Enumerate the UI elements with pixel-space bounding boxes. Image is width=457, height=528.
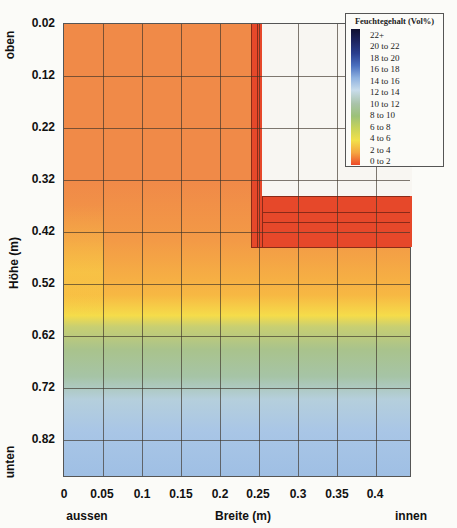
x-tick-label: 0 bbox=[61, 487, 68, 501]
legend-entry: 10 to 12 bbox=[370, 99, 400, 109]
y-tick-label: 0.62 bbox=[32, 328, 55, 342]
slab-bottom-edge bbox=[251, 247, 410, 248]
x-tick-label: 0.2 bbox=[212, 487, 229, 501]
x-right-label: innen bbox=[395, 509, 427, 523]
grid-line bbox=[64, 336, 410, 337]
legend-entry: 16 to 18 bbox=[370, 64, 400, 74]
grid-line bbox=[259, 24, 260, 476]
slab-edge bbox=[262, 196, 410, 197]
grid-line bbox=[64, 388, 410, 389]
x-tick-label: 0.35 bbox=[325, 487, 348, 501]
legend-entry: 8 to 10 bbox=[370, 110, 395, 120]
y-tick-label: 0.12 bbox=[32, 68, 55, 82]
grid-line bbox=[181, 24, 182, 476]
legend-entry: 12 to 14 bbox=[370, 87, 400, 97]
legend-entry: 14 to 16 bbox=[370, 76, 400, 86]
x-tick-label: 0.3 bbox=[290, 487, 307, 501]
legend-entry: 2 to 4 bbox=[370, 145, 391, 155]
wall-layer-line bbox=[257, 24, 258, 247]
y-tick-label: 0.72 bbox=[32, 380, 55, 394]
legend-entry: 0 to 2 bbox=[370, 156, 391, 166]
x-tick-label: 0.15 bbox=[169, 487, 192, 501]
legend-entry: 22+ bbox=[370, 30, 384, 40]
grid-line bbox=[337, 24, 338, 476]
grid-line bbox=[142, 24, 143, 476]
y-tick-label: 0.22 bbox=[32, 120, 55, 134]
legend-entry: 18 to 20 bbox=[370, 53, 400, 63]
legend-title: Feuchtegehalt (Vol%) bbox=[346, 14, 443, 26]
x-tick-label: 0.1 bbox=[134, 487, 151, 501]
legend: Feuchtegehalt (Vol%) 22+ 20 to 22 18 to … bbox=[345, 13, 444, 167]
slab-layer-line bbox=[262, 222, 410, 223]
x-axis-title: Breite (m) bbox=[215, 509, 271, 523]
legend-color-bar bbox=[351, 29, 360, 165]
x-left-label: aussen bbox=[66, 509, 107, 523]
wall-layer-line bbox=[262, 196, 263, 247]
y-tick-label: 0.02 bbox=[32, 16, 55, 30]
grid-line bbox=[64, 232, 410, 233]
x-tick-label: 0.4 bbox=[367, 487, 384, 501]
grid-line bbox=[298, 24, 299, 476]
y-axis-title: Höhe (m) bbox=[7, 237, 21, 289]
y-bottom-label: unten bbox=[3, 446, 17, 479]
legend-entry: 6 to 8 bbox=[370, 122, 391, 132]
legend-entry: 4 to 6 bbox=[370, 133, 391, 143]
grid-line bbox=[103, 24, 104, 476]
grid-line bbox=[64, 180, 410, 181]
legend-entry: 20 to 22 bbox=[370, 41, 400, 51]
y-top-label: oben bbox=[3, 31, 17, 60]
y-tick-label: 0.52 bbox=[32, 276, 55, 290]
grid-line bbox=[64, 440, 410, 441]
x-tick-label: 0.05 bbox=[90, 487, 113, 501]
y-tick-label: 0.82 bbox=[32, 432, 55, 446]
wall-edge bbox=[251, 24, 252, 247]
grid-line bbox=[220, 24, 221, 476]
x-tick-label: 0.25 bbox=[246, 487, 269, 501]
y-tick-label: 0.32 bbox=[32, 172, 55, 186]
grid-line bbox=[64, 284, 410, 285]
y-tick-label: 0.42 bbox=[32, 224, 55, 238]
slab-layer-line bbox=[262, 212, 410, 213]
